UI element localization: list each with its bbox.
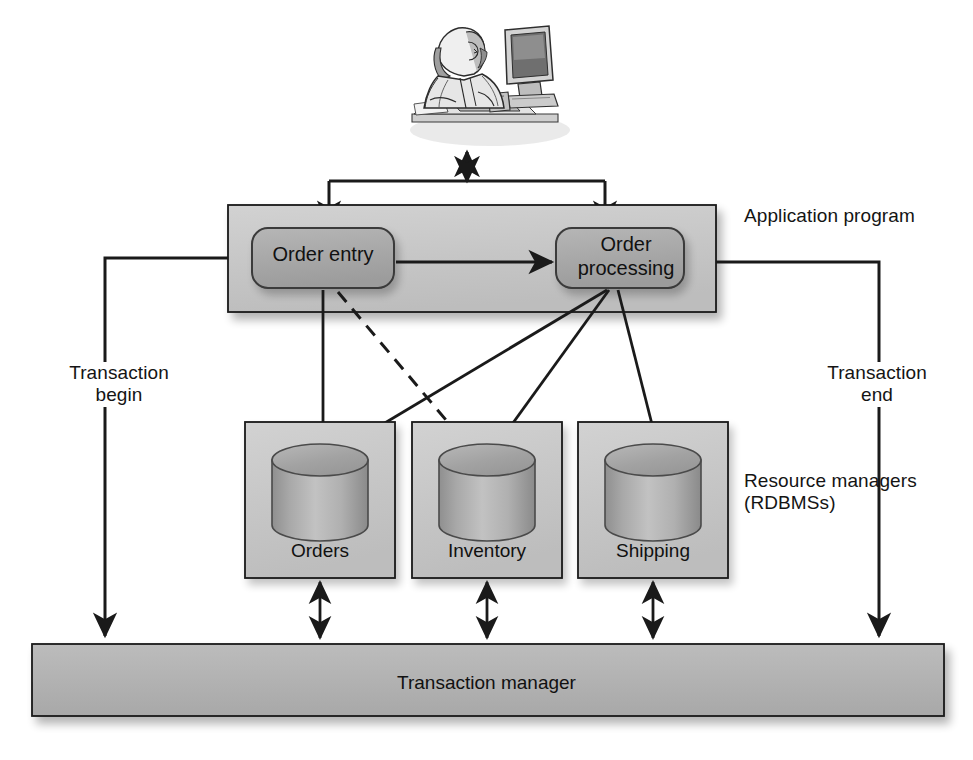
application-program-label: Application program xyxy=(744,205,915,227)
order-processing-label: Orderprocessing xyxy=(556,232,696,280)
database-label-inventory: Inventory xyxy=(412,540,562,562)
connector-transaction-begin xyxy=(105,258,228,636)
diagram-canvas: Application program Resource managers (R… xyxy=(0,0,973,760)
connector-transaction-end xyxy=(716,262,879,636)
resource-managers-label: Resource managers (RDBMSs) xyxy=(744,470,917,515)
transaction-begin-label: Transaction begin xyxy=(46,362,192,407)
database-cylinder-orders xyxy=(272,444,368,541)
database-label-orders: Orders xyxy=(245,540,395,562)
database-label-shipping: Shipping xyxy=(578,540,728,562)
database-cylinder-inventory xyxy=(439,444,535,541)
transaction-end-label: Transaction end xyxy=(812,362,942,407)
transaction-manager-label: Transaction manager xyxy=(0,672,973,694)
order-processing-label-text: Orderprocessing xyxy=(578,233,675,279)
user-at-computer-icon xyxy=(410,26,570,146)
database-cylinder-shipping xyxy=(605,444,701,541)
order-entry-label: Order entry xyxy=(248,243,398,266)
